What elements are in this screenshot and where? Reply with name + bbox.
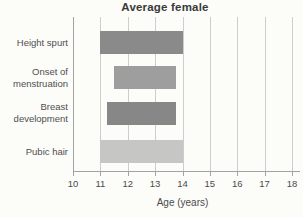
tick-label-17: 17 xyxy=(254,178,276,189)
category-label-pubic-hair: Pubic hair xyxy=(26,146,68,158)
chart-title: Average female xyxy=(30,1,300,13)
x-axis-line xyxy=(73,171,300,172)
tick-mark-13 xyxy=(155,172,156,176)
x-axis-title: Age (years) xyxy=(73,197,292,208)
tick-mark-18 xyxy=(292,172,293,176)
tick-label-11: 11 xyxy=(89,178,111,189)
bar-pubic-hair xyxy=(100,140,182,163)
category-label-line: Onset of xyxy=(13,66,68,78)
category-label-line: development xyxy=(14,113,68,125)
gridline-18 xyxy=(292,17,293,171)
tick-label-13: 13 xyxy=(144,178,166,189)
category-label-line: menstruation xyxy=(13,78,68,90)
bar-height-spurt xyxy=(100,31,182,54)
gridline-17 xyxy=(265,17,266,171)
tick-mark-10 xyxy=(73,172,74,176)
category-label-height-spurt: Height spurt xyxy=(17,37,68,49)
category-label-breast-development: Breastdevelopment xyxy=(14,101,68,125)
category-label-line: Pubic hair xyxy=(26,146,68,158)
tick-mark-16 xyxy=(237,172,238,176)
tick-mark-17 xyxy=(265,172,266,176)
tick-label-10: 10 xyxy=(62,178,84,189)
tick-mark-11 xyxy=(100,172,101,176)
tick-mark-15 xyxy=(210,172,211,176)
gridline-16 xyxy=(237,17,238,171)
bar-onset-of-menstruation xyxy=(114,66,176,89)
tick-mark-14 xyxy=(183,172,184,176)
category-label-onset-of-menstruation: Onset ofmenstruation xyxy=(13,66,68,90)
tick-label-18: 18 xyxy=(281,178,303,189)
bar-breast-development xyxy=(107,102,175,125)
tick-label-16: 16 xyxy=(226,178,248,189)
tick-label-12: 12 xyxy=(117,178,139,189)
gridline-15 xyxy=(210,17,211,171)
tick-label-14: 14 xyxy=(172,178,194,189)
tick-mark-12 xyxy=(128,172,129,176)
category-label-line: Breast xyxy=(14,101,68,113)
bar-chart-average-female: Average female Height spurtOnset ofmenst… xyxy=(0,0,303,217)
tick-label-15: 15 xyxy=(199,178,221,189)
y-axis-line xyxy=(73,17,74,172)
gridline-14 xyxy=(183,17,184,171)
category-label-line: Height spurt xyxy=(17,37,68,49)
